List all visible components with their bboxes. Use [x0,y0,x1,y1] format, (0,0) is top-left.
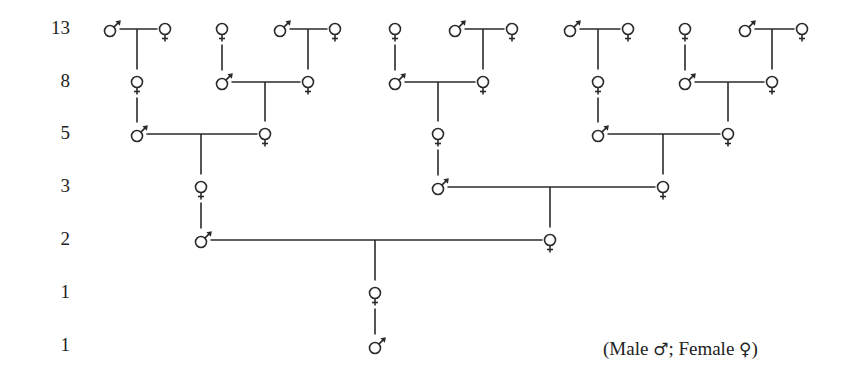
female-symbol-icon [623,24,634,42]
male-symbol-icon [565,20,581,36]
generation-count-label: 8 [40,70,70,92]
male-symbol-icon [740,20,756,36]
female-symbol-icon [370,288,381,306]
male-symbol-icon [390,73,406,89]
generation-count-label: 13 [40,17,70,39]
male-symbol-icon [275,20,291,36]
generation-count-label: 1 [40,334,70,356]
male-symbol-icon [433,178,449,194]
female-symbol-icon [433,129,444,147]
female-symbol-icon [303,77,314,95]
female-symbol-icon [767,77,778,95]
male-symbol-icon [450,20,466,36]
female-symbol-icon [680,24,691,42]
female-symbol-icon [330,24,341,42]
female-symbol-icon [593,77,604,95]
male-symbol-icon [105,20,121,36]
legend-separator: ; Female [668,338,734,359]
male-symbol-icon [370,337,386,353]
family-tree-diagram [0,0,856,386]
female-symbol-icon [260,129,271,147]
male-symbol-icon: ♂ [653,339,668,359]
female-symbol-icon [723,129,734,147]
generation-count-label: 5 [40,122,70,144]
generation-count-label: 2 [40,228,70,250]
female-symbol-icon [658,182,669,200]
legend-open: (Male [603,338,648,359]
female-symbol-icon [545,235,556,253]
female-symbol-icon [132,77,143,95]
female-symbol-icon [217,24,228,42]
male-symbol-icon [593,125,609,141]
generation-count-label: 1 [40,281,70,303]
female-symbol-icon: ♀ [739,339,751,359]
male-symbol-icon [217,73,233,89]
male-symbol-icon [196,231,212,247]
female-symbol-icon [160,24,171,42]
male-symbol-icon [680,73,696,89]
legend: (Male ♂; Female ♀) [603,338,758,360]
female-symbol-icon [390,24,401,42]
female-symbol-icon [797,24,808,42]
female-symbol-icon [507,24,518,42]
generation-count-label: 3 [40,175,70,197]
female-symbol-icon [196,182,207,200]
female-symbol-icon [478,77,489,95]
male-symbol-icon [132,125,148,141]
legend-close: ) [752,338,758,359]
